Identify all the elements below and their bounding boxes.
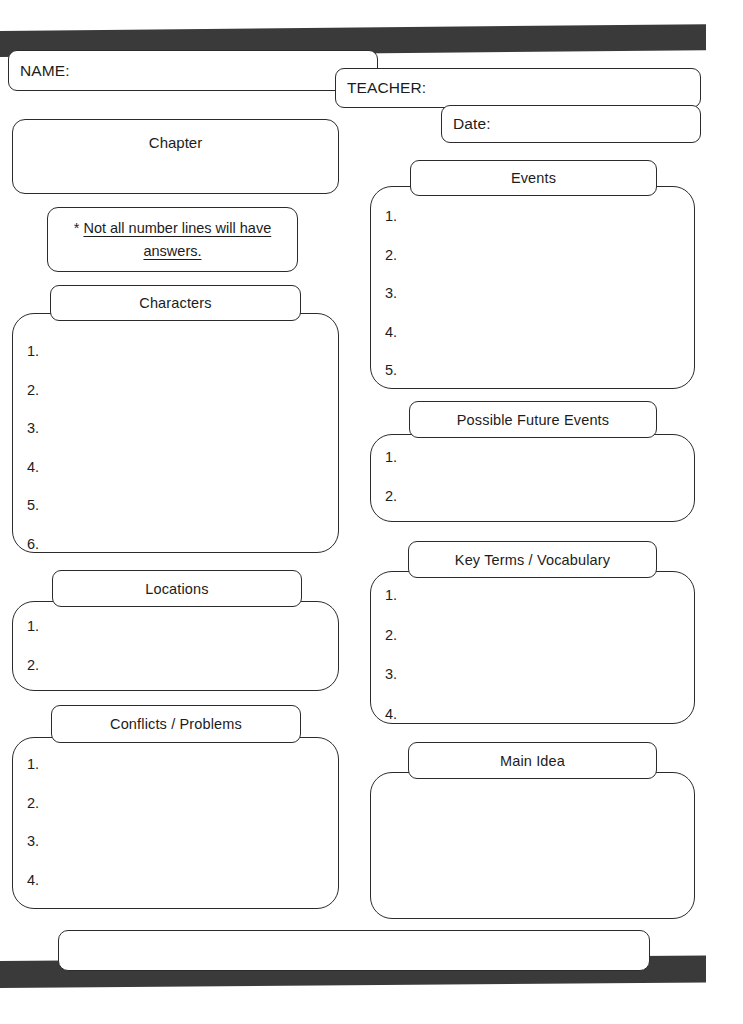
teacher-field[interactable]: TEACHER: — [335, 68, 701, 108]
list-item: 1. — [27, 344, 338, 359]
list-item: 4. — [27, 460, 338, 475]
list-item: 2. — [27, 658, 338, 673]
list-item: 3. — [385, 286, 694, 301]
key-terms-title: Key Terms / Vocabulary — [455, 552, 610, 568]
conflicts-panel[interactable]: 1. 2. 3. 4. — [12, 737, 339, 909]
list-item: 2. — [27, 383, 338, 398]
list-item: 2. — [27, 796, 338, 811]
note-asterisk: * — [74, 220, 84, 236]
worksheet-page: NAME: TEACHER: Date: Chapter * Not all n… — [0, 0, 743, 1024]
date-field[interactable]: Date: — [441, 105, 701, 143]
list-item: 6. — [27, 537, 338, 552]
list-item: 4. — [385, 325, 694, 340]
note-box: * Not all number lines will have answers… — [47, 207, 298, 272]
events-panel[interactable]: 1. 2. 3. 4. 5. — [370, 186, 695, 389]
characters-panel[interactable]: 1. 2. 3. 4. 5. 6. — [12, 313, 339, 553]
chapter-box[interactable]: Chapter — [12, 119, 339, 194]
list-item: 4. — [27, 873, 338, 888]
list-item: 2. — [385, 248, 694, 263]
future-events-lines: 1. 2. — [371, 435, 694, 521]
list-item: 5. — [27, 498, 338, 513]
list-item: 3. — [27, 421, 338, 436]
future-events-header: Possible Future Events — [409, 401, 657, 438]
name-label: NAME: — [9, 62, 70, 80]
footer-field[interactable] — [58, 930, 650, 971]
list-item: 1. — [27, 619, 338, 634]
characters-header: Characters — [50, 285, 301, 321]
future-events-title: Possible Future Events — [457, 412, 609, 428]
characters-title: Characters — [139, 295, 211, 311]
key-terms-panel[interactable]: 1. 2. 3. 4. — [370, 571, 695, 724]
note-text: * Not all number lines will have answers… — [65, 217, 280, 262]
list-item: 4. — [385, 707, 694, 722]
chapter-title: Chapter — [13, 134, 338, 151]
locations-header: Locations — [52, 570, 302, 607]
main-idea-panel[interactable] — [370, 772, 695, 919]
locations-lines: 1. 2. — [13, 602, 338, 690]
date-label: Date: — [442, 115, 491, 133]
locations-title: Locations — [145, 581, 208, 597]
note-line-2: answers. — [143, 243, 201, 259]
teacher-label: TEACHER: — [336, 79, 426, 97]
list-item: 2. — [385, 489, 694, 504]
events-lines: 1. 2. 3. 4. 5. — [371, 187, 694, 388]
conflicts-title: Conflicts / Problems — [110, 716, 242, 732]
list-item: 5. — [385, 363, 694, 378]
list-item: 2. — [385, 628, 694, 643]
list-item: 1. — [385, 209, 694, 224]
name-field[interactable]: NAME: — [8, 50, 378, 91]
main-idea-header: Main Idea — [408, 742, 657, 779]
list-item: 1. — [385, 450, 694, 465]
main-idea-title: Main Idea — [500, 753, 565, 769]
conflicts-header: Conflicts / Problems — [51, 705, 301, 743]
events-header: Events — [410, 160, 657, 196]
characters-lines: 1. 2. 3. 4. 5. 6. — [13, 314, 338, 552]
locations-panel[interactable]: 1. 2. — [12, 601, 339, 691]
list-item: 1. — [385, 588, 694, 603]
list-item: 3. — [385, 667, 694, 682]
future-events-panel[interactable]: 1. 2. — [370, 434, 695, 522]
note-line-1: Not all number lines will have — [83, 220, 271, 236]
events-title: Events — [511, 170, 556, 186]
key-terms-lines: 1. 2. 3. 4. — [371, 572, 694, 723]
conflicts-lines: 1. 2. 3. 4. — [13, 738, 338, 908]
key-terms-header: Key Terms / Vocabulary — [408, 541, 657, 578]
list-item: 1. — [27, 757, 338, 772]
list-item: 3. — [27, 834, 338, 849]
